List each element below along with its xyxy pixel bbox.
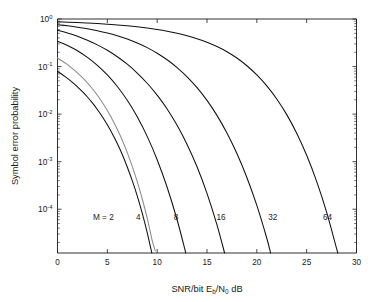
curve-label-2: M = 2	[93, 213, 114, 222]
curve-2	[58, 72, 152, 253]
curve-label-16: 16	[216, 213, 226, 222]
x-tick-label: 20	[252, 258, 262, 267]
x-axis-tick-labels: 051015202530	[55, 258, 361, 267]
x-tick-label: 5	[105, 258, 110, 267]
y-tick-label: 10-1	[38, 61, 52, 71]
x-tick-label: 15	[202, 258, 212, 267]
symbol-error-probability-chart: 10010-110-210-310-4 051015202530 M = 248…	[0, 0, 379, 302]
y-tick-label: 10-2	[38, 109, 52, 119]
curve-label-4: 4	[136, 213, 141, 222]
chart-figure: 10010-110-210-310-4 051015202530 M = 248…	[0, 0, 379, 302]
curve-label-8: 8	[174, 213, 179, 222]
y-axis-ticks	[58, 19, 357, 242]
curve-label-64: 64	[323, 213, 333, 222]
curve-annotations: M = 248163264	[93, 213, 333, 222]
y-tick-label: 10-3	[38, 156, 52, 166]
y-tick-label: 10-4	[38, 204, 53, 214]
x-tick-label: 0	[55, 258, 60, 267]
x-tick-label: 10	[153, 258, 163, 267]
curve-8	[58, 41, 186, 253]
x-axis-title: SNR/bit Eb/N0 dB	[171, 284, 242, 295]
x-tick-label: 25	[302, 258, 312, 267]
x-tick-label: 30	[352, 258, 362, 267]
y-axis-tick-labels: 10010-110-210-310-4	[38, 14, 53, 215]
y-tick-label: 100	[40, 14, 53, 24]
y-axis-title: Symbol error probability	[10, 87, 20, 186]
curve-label-32: 32	[268, 213, 278, 222]
curve-16	[58, 30, 225, 253]
